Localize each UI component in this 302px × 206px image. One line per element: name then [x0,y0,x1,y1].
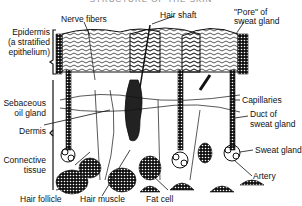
epidermis-layer [56,28,248,74]
fat-cells [56,143,264,194]
label-connective-line2: tissue [0,166,46,176]
label-hair-muscle: Hair muscle [80,195,125,205]
sweat-ducts [66,70,235,150]
label-duct-line2: sweat gland [250,120,295,130]
label-sweat-gland: Sweat gland [255,146,302,156]
label-sebaceous-line2: oil gland [0,109,46,119]
label-artery: Artery [253,172,276,182]
label-nerve-fibers: Nerve fibers [61,15,107,25]
label-epidermis-line3: epithelium) [0,48,50,58]
label-pore-line2: sweat gland [234,17,279,27]
label-fat-cell: Fat cell [146,195,173,205]
label-hair-follicle: Hair follicle [20,195,62,205]
label-hair-shaft: Hair shaft [160,11,196,21]
epidermis-bracket [50,30,56,190]
label-capillaries: Capillaries [242,96,282,106]
label-dermis: Dermis [0,127,46,137]
